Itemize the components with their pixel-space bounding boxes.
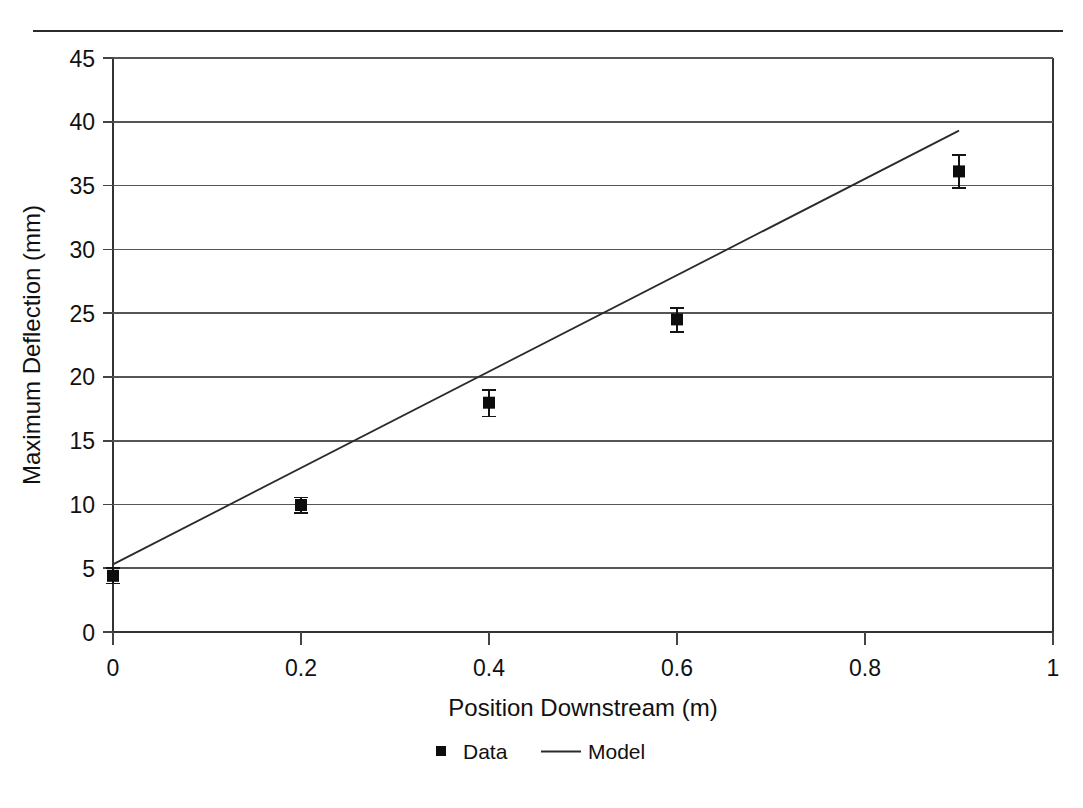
data-marker-square [483,397,495,409]
y-tick-label-25: 25 [69,301,95,327]
data-point-0 [106,568,120,583]
y-axis-title: Maximum Deflection (mm) [18,205,45,485]
y-tick-label-5: 5 [82,556,95,582]
y-tick-label-35: 35 [69,173,95,199]
x-tick-label-0: 0 [107,655,120,681]
legend-square-marker-icon [436,746,446,756]
data-point-3 [670,308,684,332]
x-tick-labels: 0 0.2 0.4 0.6 0.8 1 [107,655,1060,681]
y-tick-label-0: 0 [82,620,95,646]
y-tick-marks [103,58,113,632]
data-point-2 [482,390,496,417]
y-tick-label-45: 45 [69,46,95,72]
x-tick-label-0-8: 0.8 [849,655,881,681]
legend-label-model: Model [588,740,645,763]
y-tick-label-20: 20 [69,364,95,390]
legend-label-data: Data [463,740,508,763]
y-tick-labels: 45 40 35 30 25 20 15 10 5 0 [69,46,95,646]
y-tick-label-15: 15 [69,428,95,454]
plot-frame [113,58,1053,632]
data-marker-square [107,570,119,582]
x-tick-marks [113,632,1053,645]
deflection-chart: 45 40 35 30 25 20 15 10 5 0 [0,0,1083,808]
data-point-4 [952,155,966,188]
data-series [106,155,966,584]
chart-legend: Data Model [436,740,645,763]
y-tick-label-40: 40 [69,109,95,135]
y-tick-label-10: 10 [69,492,95,518]
model-trend-line [113,131,959,565]
x-axis-title: Position Downstream (m) [448,694,717,721]
x-tick-label-1: 1 [1047,655,1060,681]
model-series [113,131,959,565]
data-point-1 [294,497,308,512]
x-tick-label-0-6: 0.6 [661,655,693,681]
data-marker-square [953,165,965,177]
x-tick-label-0-2: 0.2 [285,655,317,681]
y-tick-label-30: 30 [69,237,95,263]
data-marker-square [671,313,683,325]
chart-canvas: 45 40 35 30 25 20 15 10 5 0 [0,0,1083,808]
data-marker-square [295,499,307,511]
figure-page: 45 40 35 30 25 20 15 10 5 0 [0,0,1083,808]
x-tick-label-0-4: 0.4 [473,655,505,681]
